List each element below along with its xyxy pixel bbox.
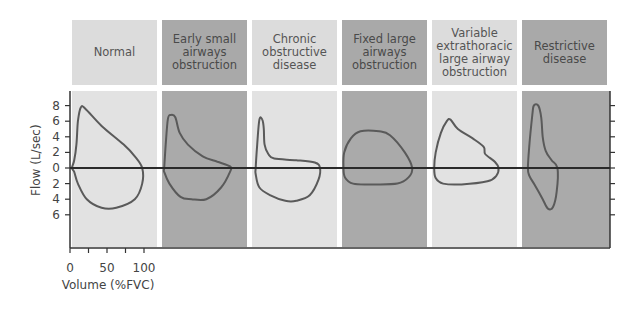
- flow-volume-loop-chronic-obstructive: [255, 117, 320, 201]
- y-tick-label: 8: [52, 99, 60, 113]
- flow-volume-loop-fixed-large-airways: [343, 131, 412, 185]
- y-tick-label: 6: [52, 208, 60, 222]
- flow-volume-loop-early-small-airways: [164, 115, 232, 200]
- flow-volume-loop-normal: [72, 106, 143, 209]
- flow-volume-loop-variable-extrathoracic: [434, 119, 498, 185]
- y-axis-title: Flow (L/sec): [29, 124, 43, 196]
- y-tick-label: 4: [52, 130, 60, 144]
- x-tick-label: 100: [133, 261, 156, 275]
- x-tick-label: 0: [66, 261, 74, 275]
- x-tick-label: 50: [99, 261, 114, 275]
- y-tick-label: 2: [52, 145, 60, 159]
- flow-volume-plot: 86420246050100Flow (L/sec)Volume (%FVC): [0, 0, 637, 315]
- y-tick-label: 2: [52, 177, 60, 191]
- y-tick-label: 4: [52, 192, 60, 206]
- x-axis-title: Volume (%FVC): [62, 278, 155, 292]
- flow-volume-loop-restrictive: [528, 104, 558, 209]
- y-tick-label: 6: [52, 114, 60, 128]
- y-tick-label: 0: [52, 161, 60, 175]
